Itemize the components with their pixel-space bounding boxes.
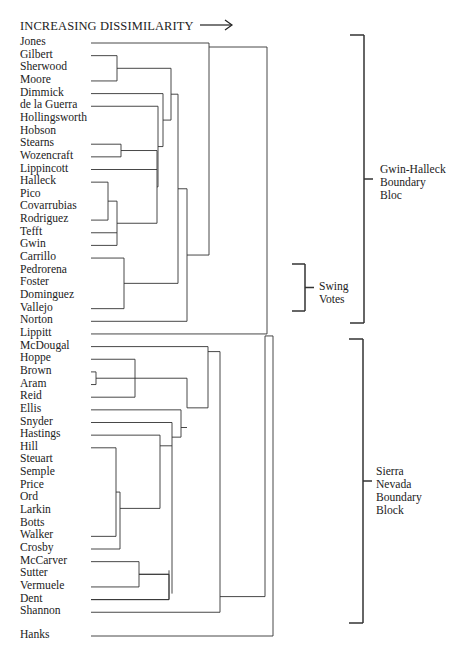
dendrogram-tree <box>0 0 451 654</box>
